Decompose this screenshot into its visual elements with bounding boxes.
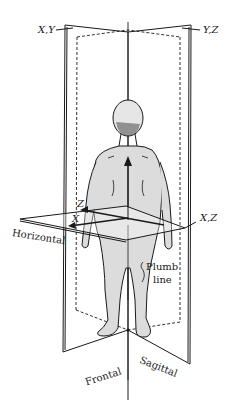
label-z: Z	[77, 199, 84, 209]
label-line: line	[153, 275, 172, 285]
label-xz: X,Z	[200, 213, 217, 223]
right-arm	[160, 162, 172, 249]
anatomical-planes-diagram	[0, 0, 229, 402]
label-plumb: Plumb	[146, 262, 178, 272]
label-xy: X,Y	[38, 25, 55, 35]
label-x: X	[72, 214, 79, 224]
plane-intersection-point	[126, 328, 129, 331]
label-yz: Y,Z	[203, 25, 218, 35]
